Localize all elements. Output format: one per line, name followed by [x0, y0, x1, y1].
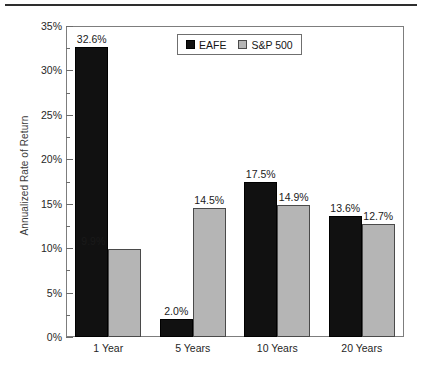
bar-sp500	[277, 205, 310, 337]
y-tick-label: 35%	[22, 20, 62, 32]
y-tick-label: 30%	[22, 64, 62, 76]
y-tick-label: 5%	[22, 287, 62, 299]
y-tick-mark	[66, 26, 73, 27]
y-tick-mark	[66, 159, 73, 160]
y-tick-mark	[66, 248, 73, 249]
gray-square-icon	[238, 40, 247, 49]
bar-value-label: 32.6%	[77, 33, 107, 45]
x-tick-label: 20 Years	[341, 342, 382, 354]
bar-value-label: 17.5%	[246, 168, 276, 180]
bar-eafe	[160, 319, 193, 337]
bar-value-label: 2.0%	[164, 305, 188, 317]
y-tick-mark	[66, 70, 73, 71]
chart-legend: EAFE S&P 500	[177, 34, 302, 55]
y-tick-mark	[66, 337, 73, 338]
y-tick-label: 15%	[22, 198, 62, 210]
y-minor-tick-mark	[66, 315, 70, 316]
legend-label-sp500: S&P 500	[251, 39, 292, 51]
y-minor-tick-mark	[66, 182, 70, 183]
y-tick-mark	[66, 115, 73, 116]
bar-eafe	[244, 182, 277, 338]
y-tick-label: 10%	[22, 242, 62, 254]
legend-label-eafe: EAFE	[199, 39, 226, 51]
bar-value-label: 13.6%	[330, 202, 360, 214]
y-minor-tick-mark	[66, 226, 70, 227]
x-tick-label: 10 Years	[257, 342, 298, 354]
y-tick-mark	[66, 293, 73, 294]
x-tick-label: 5 Years	[175, 342, 210, 354]
y-minor-tick-mark	[66, 48, 70, 49]
y-tick-label: 0%	[22, 331, 62, 343]
legend-entry-eafe: EAFE	[186, 39, 226, 51]
bars-layer: 32.6%9.9%2.0%14.5%17.5%14.9%13.6%12.7%	[66, 26, 404, 337]
bar-sp500	[362, 224, 395, 337]
legend-entry-sp500: S&P 500	[238, 39, 292, 51]
y-minor-tick-mark	[66, 93, 70, 94]
header-rule	[5, 4, 417, 6]
x-tick-label: 1 Year	[93, 342, 123, 354]
y-tick-label: 25%	[22, 109, 62, 121]
bar-sp500	[193, 208, 226, 337]
y-tick-mark	[66, 204, 73, 205]
bar-value-label: 14.9%	[279, 191, 309, 203]
bar-eafe	[329, 216, 362, 337]
y-minor-tick-mark	[66, 137, 70, 138]
black-square-icon	[186, 40, 195, 49]
y-minor-tick-mark	[66, 270, 70, 271]
bar-eafe	[75, 47, 108, 337]
y-tick-label: 20%	[22, 153, 62, 165]
bar-value-label: 12.7%	[363, 210, 393, 222]
bar-chart-figure: Annualized Rate of Return 0%5%10%15%20%2…	[0, 0, 422, 370]
y-axis-tick-labels: 0%5%10%15%20%25%30%35%	[18, 26, 62, 337]
bar-sp500	[108, 249, 141, 337]
bar-value-label: 9.9%	[81, 235, 105, 247]
bar-value-label: 14.5%	[194, 194, 224, 206]
